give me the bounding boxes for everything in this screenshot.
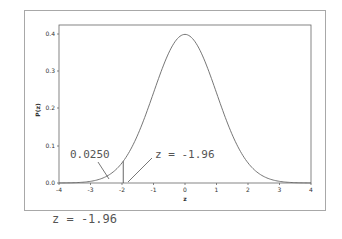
x-tick-label: 1 bbox=[215, 186, 219, 193]
tail-area-annotation: 0.0250 bbox=[70, 148, 110, 161]
y-axis-label: P(z) bbox=[34, 103, 41, 117]
z-leader-line bbox=[128, 158, 152, 182]
y-tick-label: 0.3 bbox=[45, 67, 55, 74]
y-tick-label: 0.4 bbox=[45, 30, 55, 37]
x-tick-label: 0 bbox=[183, 186, 187, 193]
x-axis: -4 -3 -2 -1 0 1 2 3 4 z bbox=[56, 183, 313, 202]
x-tick-label: -3 bbox=[88, 186, 94, 193]
area-leader-line bbox=[98, 162, 109, 179]
z-value-caption: z = -1.96 bbox=[52, 212, 117, 226]
x-tick-label: 3 bbox=[278, 186, 282, 193]
y-tick-label: 0.1 bbox=[45, 142, 55, 149]
x-tick-label: -2 bbox=[119, 186, 125, 193]
x-tick-label: 4 bbox=[309, 186, 313, 193]
x-tick-label: -1 bbox=[151, 186, 157, 193]
y-tick-label: 0.2 bbox=[45, 104, 55, 111]
y-tick-label: 0.0 bbox=[45, 179, 55, 186]
y-axis: 0.0 0.1 0.2 0.3 0.4 P(z) bbox=[34, 30, 59, 186]
x-tick-label: -4 bbox=[56, 186, 62, 193]
x-axis-label: z bbox=[183, 195, 187, 202]
normal-distribution-chart: 0.0 0.1 0.2 0.3 0.4 P(z) -4 -3 -2 -1 0 1… bbox=[0, 0, 342, 239]
z-value-annotation: z = -1.96 bbox=[155, 148, 215, 161]
x-tick-label: 2 bbox=[246, 186, 250, 193]
